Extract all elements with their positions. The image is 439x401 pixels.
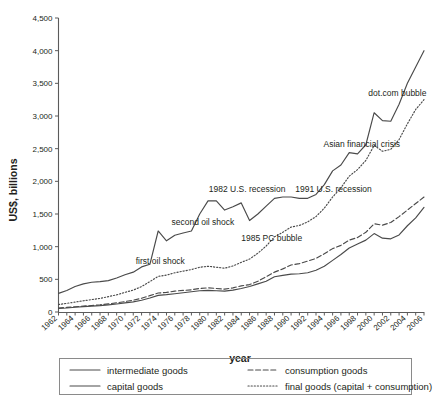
annotation-label: 1991 U.S. recession bbox=[295, 184, 372, 194]
x-tick-label: 1984 bbox=[222, 313, 242, 332]
x-tick-label: 1992 bbox=[289, 313, 309, 332]
x-tick-label: 2004 bbox=[388, 313, 408, 332]
x-tick-label: 1980 bbox=[189, 313, 209, 332]
x-tick-label: 1978 bbox=[172, 313, 192, 332]
x-tick-label: 2000 bbox=[355, 313, 375, 332]
x-tick-label: 1962 bbox=[40, 313, 60, 332]
x-tick-label: 1998 bbox=[339, 313, 359, 332]
x-axis-tick-labels: 1962196419661968197019721974197619781980… bbox=[40, 313, 425, 332]
y-tick-label: 1,000 bbox=[32, 243, 53, 252]
x-tick-label: 1990 bbox=[272, 313, 292, 332]
annotation-label: 1982 U.S. recession bbox=[209, 184, 286, 194]
x-tick-label: 1970 bbox=[106, 313, 126, 332]
x-tick-label: 1996 bbox=[322, 313, 342, 332]
x-tick-label: 1966 bbox=[73, 313, 93, 332]
y-tick-label: 4,000 bbox=[32, 47, 53, 56]
x-tick-label: 1986 bbox=[239, 313, 259, 332]
x-tick-label: 1982 bbox=[206, 313, 226, 332]
x-tick-label: 1988 bbox=[256, 313, 276, 332]
chart-annotations: first oil shocksecond oil shock1982 U.S.… bbox=[136, 88, 427, 267]
y-tick-label: 4,500 bbox=[32, 14, 53, 23]
axes bbox=[59, 18, 425, 313]
y-tick-label: 1,500 bbox=[32, 210, 53, 219]
x-tick-label: 1964 bbox=[56, 313, 76, 332]
legend-label: capital goods bbox=[107, 381, 163, 392]
y-tick-label: 3,000 bbox=[32, 112, 53, 121]
annotation-label: dot.com bubble bbox=[368, 88, 426, 98]
x-tick-label: 1968 bbox=[89, 313, 109, 332]
series-line-capital-goods bbox=[59, 207, 425, 308]
line-chart-figure: 05001,0001,5002,0002,5003,0003,5004,0004… bbox=[0, 0, 439, 401]
y-tick-label: 3,500 bbox=[32, 79, 53, 88]
annotation-label: first oil shock bbox=[136, 256, 186, 266]
annotation-label: second oil shock bbox=[171, 217, 235, 227]
x-tick-label: 1976 bbox=[156, 313, 176, 332]
legend-label: final goods (capital + consumption) bbox=[285, 381, 432, 392]
y-tick-label: 2,500 bbox=[32, 145, 53, 154]
annotation-label: Asian financial crisis bbox=[323, 139, 400, 149]
x-tick-label: 1974 bbox=[139, 313, 159, 332]
y-tick-label: 500 bbox=[39, 275, 53, 284]
annotation-label: 1985 PC bubble bbox=[241, 233, 302, 243]
y-axis-title: US$, billions bbox=[7, 158, 19, 221]
x-tick-label: 1972 bbox=[123, 313, 143, 332]
x-tick-label: 1994 bbox=[305, 313, 325, 332]
chart-container: 05001,0001,5002,0002,5003,0003,5004,0004… bbox=[0, 0, 439, 401]
series-line-consumption-goods bbox=[59, 197, 425, 308]
legend-label: consumption goods bbox=[285, 365, 368, 376]
legend-label: intermediate goods bbox=[107, 365, 188, 376]
y-axis-tick-labels: 05001,0001,5002,0002,5003,0003,5004,0004… bbox=[32, 14, 53, 317]
y-tick-label: 2,000 bbox=[32, 177, 53, 186]
x-tick-label: 2002 bbox=[372, 313, 392, 332]
x-tick-label: 2006 bbox=[405, 313, 425, 332]
